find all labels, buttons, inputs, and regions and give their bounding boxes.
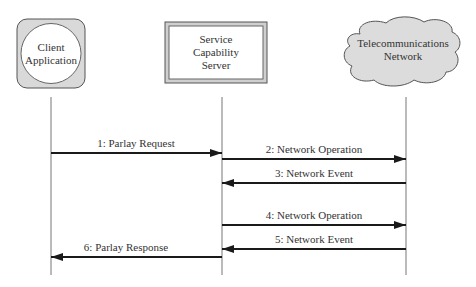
message-label: 4: Network Operation bbox=[266, 209, 363, 221]
scs-label-line-1: Service bbox=[200, 33, 233, 45]
message-3: 3: Network Event bbox=[222, 167, 406, 183]
scs-label-line-2: Capability bbox=[193, 46, 239, 58]
scs-label-line-3: Server bbox=[202, 59, 231, 71]
message-2: 2: Network Operation bbox=[222, 143, 406, 159]
message-label: 6: Parlay Response bbox=[84, 241, 168, 253]
client-label-line-2: Application bbox=[25, 54, 77, 66]
message-label: 1: Parlay Request bbox=[97, 137, 175, 149]
participant-service-capability-server: Service Capability Server bbox=[165, 22, 267, 83]
message-6: 6: Parlay Response bbox=[51, 241, 222, 257]
message-4: 4: Network Operation bbox=[222, 209, 406, 225]
participant-client-application: Client Application bbox=[17, 19, 85, 88]
participant-telecommunications-network: Telecommunications Network bbox=[344, 17, 460, 86]
network-label-line-2: Network bbox=[384, 50, 423, 62]
message-5: 5: Network Event bbox=[222, 233, 406, 249]
sequence-diagram: Client Application Service Capability Se… bbox=[0, 0, 476, 287]
message-label: 2: Network Operation bbox=[266, 143, 363, 155]
message-label: 5: Network Event bbox=[275, 233, 353, 245]
network-label-line-1: Telecommunications bbox=[357, 37, 448, 49]
message-1: 1: Parlay Request bbox=[51, 137, 222, 153]
message-label: 3: Network Event bbox=[275, 167, 353, 179]
client-label-line-1: Client bbox=[38, 41, 65, 53]
